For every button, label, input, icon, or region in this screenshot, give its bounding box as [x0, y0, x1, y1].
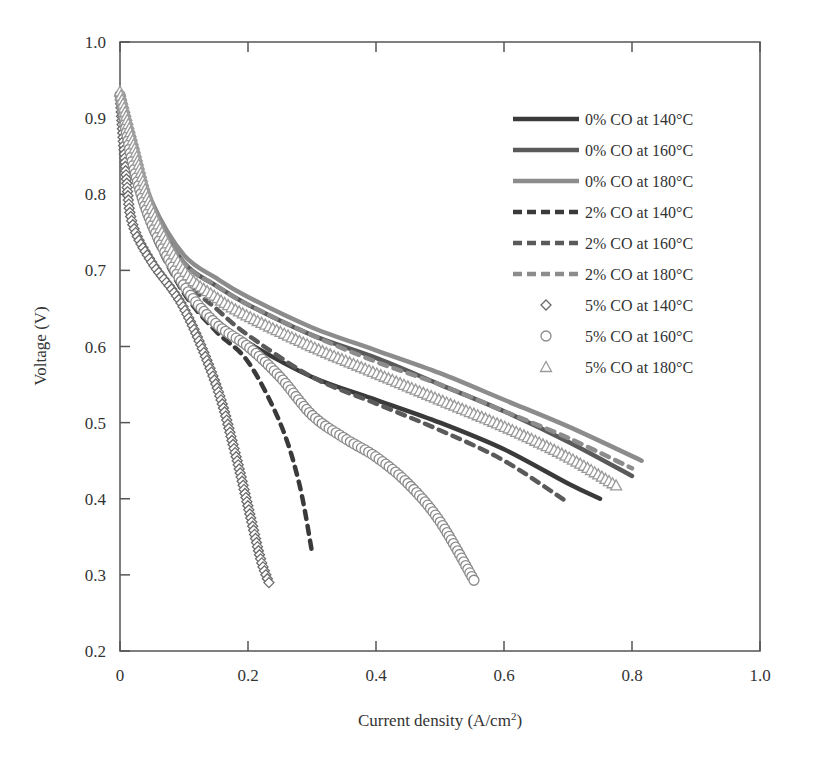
legend-item: 5% CO at 180°C — [541, 359, 694, 376]
y-tick-label: 0.8 — [85, 185, 106, 204]
series-layer — [115, 86, 642, 588]
legend-label: 5% CO at 180°C — [585, 359, 693, 376]
legend-label: 2% CO at 180°C — [585, 266, 693, 283]
plot-frame — [120, 42, 760, 651]
legend-item: 2% CO at 160°C — [513, 235, 693, 252]
x-axis-title: Current density (A/cm2) — [358, 710, 522, 730]
legend-item: 0% CO at 180°C — [513, 173, 693, 190]
legend-item: 5% CO at 140°C — [541, 297, 693, 314]
y-axis-title: Voltage (V) — [31, 306, 50, 385]
legend-label: 0% CO at 160°C — [585, 142, 693, 159]
x-tick-labels: 00.20.40.60.81.0 — [116, 666, 771, 685]
legend-label: 0% CO at 180°C — [585, 173, 693, 190]
legend-item: 2% CO at 180°C — [513, 266, 693, 283]
legend-label: 5% CO at 140°C — [585, 297, 693, 314]
voltage-current-chart: 0.20.30.40.50.60.70.80.91.0 00.20.40.60.… — [0, 0, 817, 763]
x-tick-label: 1.0 — [749, 666, 770, 685]
y-tick-label: 0.5 — [85, 414, 106, 433]
legend: 0% CO at 140°C0% CO at 160°C0% CO at 180… — [513, 111, 693, 376]
legend-label: 2% CO at 140°C — [585, 204, 693, 221]
y-tick-label: 0.7 — [85, 261, 107, 280]
legend-item: 0% CO at 160°C — [513, 142, 693, 159]
y-tick-label: 0.3 — [85, 566, 106, 585]
y-tick-labels: 0.20.30.40.50.60.70.80.91.0 — [85, 33, 107, 661]
legend-item: 2% CO at 140°C — [513, 204, 693, 221]
y-tick-label: 0.4 — [85, 490, 107, 509]
legend-item: 0% CO at 140°C — [513, 111, 693, 128]
y-tick-label: 0.2 — [85, 642, 106, 661]
axis-ticks — [120, 42, 760, 651]
y-tick-label: 0.6 — [85, 338, 106, 357]
x-tick-label: 0.2 — [237, 666, 258, 685]
x-tick-label: 0 — [116, 666, 125, 685]
legend-label: 5% CO at 160°C — [585, 328, 693, 345]
x-tick-label: 0.8 — [621, 666, 642, 685]
x-tick-label: 0.6 — [493, 666, 514, 685]
y-tick-label: 0.9 — [85, 109, 106, 128]
y-tick-label: 1.0 — [85, 33, 106, 52]
x-tick-label: 0.4 — [365, 666, 387, 685]
legend-item: 5% CO at 160°C — [541, 328, 693, 345]
legend-label: 2% CO at 160°C — [585, 235, 693, 252]
legend-label: 0% CO at 140°C — [585, 111, 693, 128]
